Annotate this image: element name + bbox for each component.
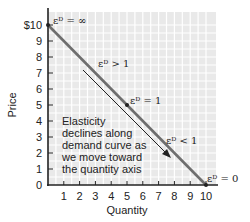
label-eps-zero: εᴰ = 0 xyxy=(207,173,238,184)
x-tick-label: 10 xyxy=(200,190,212,202)
x-tick-label: 1 xyxy=(61,190,67,202)
x-tick-label: 6 xyxy=(140,190,146,202)
x-tick-label: 7 xyxy=(156,190,162,202)
svg-text:we move toward: we move toward xyxy=(61,151,142,163)
unit-elastic-point xyxy=(125,103,129,107)
y-tick-label: 2 xyxy=(36,147,42,159)
x-tick-label: 8 xyxy=(171,190,177,202)
y-tick-label: $10 xyxy=(24,19,42,31)
y-tick-label: 4 xyxy=(36,115,42,127)
x-tick-label: 2 xyxy=(77,190,83,202)
svg-text:the quantity axis: the quantity axis xyxy=(62,163,142,175)
y-tick-label: 7 xyxy=(36,67,42,79)
svg-text:demand curve as: demand curve as xyxy=(62,139,147,151)
x-tick-label: 4 xyxy=(108,190,114,202)
y-tick-label: 1 xyxy=(36,163,42,175)
y-tick-label: 6 xyxy=(36,83,42,95)
label-eps-infinite: εᴰ = ∞ xyxy=(53,15,86,26)
label-eps-lt1: εᴰ < 1 xyxy=(166,135,197,146)
y-tick-label: 9 xyxy=(36,35,42,47)
x-tick-label: 3 xyxy=(92,190,98,202)
y-tick-label: 3 xyxy=(36,131,42,143)
x-tick-label: 5 xyxy=(124,190,130,202)
y-axis-label: Price xyxy=(6,92,18,117)
demand-elasticity-chart: 123456789100123456789$10 εᴰ = ∞ εᴰ > 1 ε… xyxy=(0,0,250,222)
label-eps-eq1: εᴰ = 1 xyxy=(130,95,161,106)
svg-text:Elasticity: Elasticity xyxy=(62,115,106,127)
label-eps-gt1: εᴰ > 1 xyxy=(98,58,129,69)
y-tick-label: 0 xyxy=(36,179,42,191)
y-tick-label: 8 xyxy=(36,51,42,63)
y-tick-label: 5 xyxy=(36,99,42,111)
x-tick-label: 9 xyxy=(187,190,193,202)
svg-text:declines along: declines along xyxy=(62,127,132,139)
x-axis-label: Quantity xyxy=(107,204,148,216)
